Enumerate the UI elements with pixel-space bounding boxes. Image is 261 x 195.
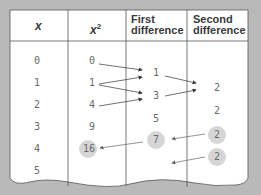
second-difference-value: 2	[209, 151, 225, 163]
x-value: 5	[29, 165, 45, 177]
x-squared-value: 0	[84, 55, 100, 67]
header-second-difference: Second difference	[193, 14, 246, 36]
second-difference-value: 2	[209, 129, 225, 141]
x-squared-value: 4	[84, 99, 100, 111]
x-value: 4	[29, 143, 45, 155]
x-value: 2	[29, 99, 45, 111]
x-squared-value: 1	[84, 77, 100, 89]
header-first-difference: First difference	[131, 14, 184, 36]
second-difference-value: 2	[209, 82, 225, 94]
x-squared-value: 16	[81, 143, 97, 155]
first-difference-value: 7	[148, 134, 164, 146]
x-value: 0	[29, 55, 45, 67]
first-difference-value: 5	[148, 113, 164, 125]
x-value: 3	[29, 121, 45, 133]
x-squared-value: 9	[84, 121, 100, 133]
second-difference-value: 2	[209, 105, 225, 117]
header-x: x	[35, 21, 42, 32]
header-x-squared: x2	[90, 21, 101, 36]
first-difference-value: 3	[148, 90, 164, 102]
first-difference-value: 1	[148, 67, 164, 79]
header-x-squared-base: x	[90, 23, 97, 37]
header-x-squared-exp: 2	[97, 22, 101, 31]
x-value: 1	[29, 77, 45, 89]
header-first-line2: difference	[131, 25, 184, 36]
header-second-line2: difference	[193, 25, 246, 36]
